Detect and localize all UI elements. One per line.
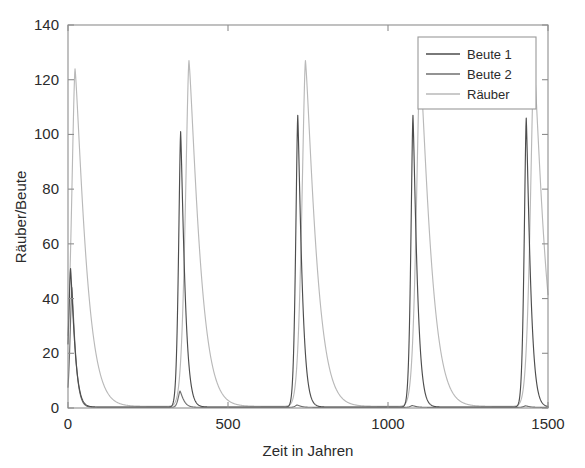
chart-canvas: 050010001500020406080100120140 Zeit in J… <box>0 0 585 468</box>
x-tick-label-0: 0 <box>64 415 72 432</box>
x-tick-label-1: 500 <box>215 415 240 432</box>
y-tick-label-5: 100 <box>34 125 59 142</box>
y-tick-label-1: 20 <box>42 344 59 361</box>
y-tick-label-4: 80 <box>42 180 59 197</box>
x-tick-label-3: 1500 <box>531 415 564 432</box>
x-axis-title: Zeit in Jahren <box>263 442 354 459</box>
y-tick-label-0: 0 <box>51 399 59 416</box>
y-tick-label-3: 60 <box>42 235 59 252</box>
y-tick-label-7: 140 <box>34 16 59 33</box>
y-tick-label-2: 40 <box>42 290 59 307</box>
legend-label-1: Beute 2 <box>467 67 512 82</box>
x-tick-label-2: 1000 <box>371 415 404 432</box>
chart-legend[interactable]: Beute 1Beute 2Räuber <box>418 37 536 109</box>
figure-container: 050010001500020406080100120140 Zeit in J… <box>0 0 585 468</box>
legend-label-2: Räuber <box>467 87 510 102</box>
y-axis-title: Räuber/Beute <box>12 171 29 264</box>
legend-label-0: Beute 1 <box>467 47 512 62</box>
y-tick-label-6: 120 <box>34 71 59 88</box>
